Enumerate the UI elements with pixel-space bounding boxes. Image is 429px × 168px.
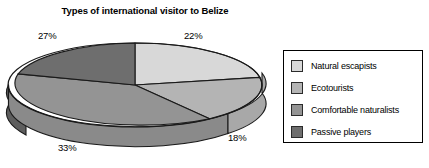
legend-item-passive-players: Passive players <box>291 125 371 138</box>
pie-label-ecotourists: 18% <box>228 132 246 143</box>
legend-swatch-comfortable-naturalists <box>291 104 303 116</box>
legend-label-passive-players: Passive players <box>311 126 371 138</box>
pie-label-passive-players: 27% <box>38 30 56 41</box>
legend-swatch-natural-escapists <box>291 60 303 72</box>
legend-label-natural-escapists: Natural escapists <box>311 60 377 72</box>
legend-label-comfortable-naturalists: Comfortable naturalists <box>311 104 399 116</box>
legend-item-ecotourists: Ecotourists <box>291 81 353 94</box>
legend-swatch-passive-players <box>291 126 303 138</box>
legend-item-natural-escapists: Natural escapists <box>291 59 377 72</box>
legend-item-comfortable-naturalists: Comfortable naturalists <box>291 103 399 116</box>
pie-chart-figure: Types of international visitor to Belize… <box>0 0 429 168</box>
pie-label-natural-escapists: 22% <box>184 30 202 41</box>
legend-swatch-ecotourists <box>291 82 303 94</box>
legend-label-ecotourists: Ecotourists <box>311 82 353 94</box>
chart-title: Types of international visitor to Belize <box>0 5 290 16</box>
chart-legend: Natural escapists Ecotourists Comfortabl… <box>283 50 423 143</box>
pie-3d-graphic <box>0 20 275 168</box>
pie-label-comfortable-naturalists: 33% <box>58 142 76 153</box>
pie-plot-area: 27% 22% 18% 33% <box>0 20 275 168</box>
